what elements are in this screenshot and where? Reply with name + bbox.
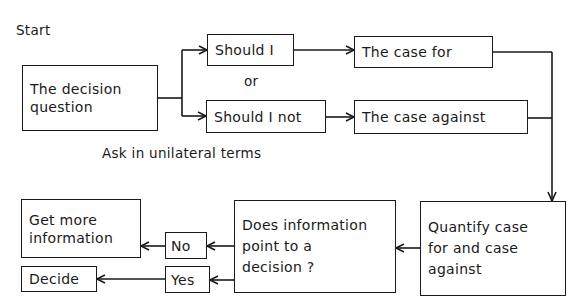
case-for-text: The case for (362, 43, 452, 61)
decide-node: Decide (21, 266, 97, 292)
case-for-node: The case for (354, 36, 493, 68)
does-information-node: Does information point to a decision ? (234, 200, 396, 293)
decision-question-text: The decision question (30, 80, 122, 116)
ask-note: Ask in unilateral terms (102, 145, 261, 161)
decision-question-node: The decision question (22, 65, 158, 131)
does-information-text: Does information point to a decision ? (242, 215, 367, 278)
decide-text: Decide (29, 270, 79, 288)
should-i-node: Should I (207, 34, 294, 66)
yes-text: Yes (171, 271, 195, 289)
get-more-information-node: Get more information (21, 199, 141, 258)
no-text: No (171, 237, 191, 255)
should-i-not-text: Should I not (214, 108, 302, 126)
quantify-node: Quantify case for and case against (420, 201, 566, 296)
get-more-information-text: Get more information (29, 211, 113, 247)
start-label: Start (16, 22, 50, 38)
should-i-text: Should I (215, 41, 274, 59)
or-label: or (244, 73, 258, 89)
should-i-not-node: Should I not (206, 100, 326, 133)
case-against-node: The case against (354, 100, 528, 134)
quantify-text: Quantify case for and case against (428, 217, 528, 280)
no-node: No (165, 232, 207, 259)
case-against-text: The case against (362, 108, 486, 126)
yes-node: Yes (165, 266, 210, 293)
